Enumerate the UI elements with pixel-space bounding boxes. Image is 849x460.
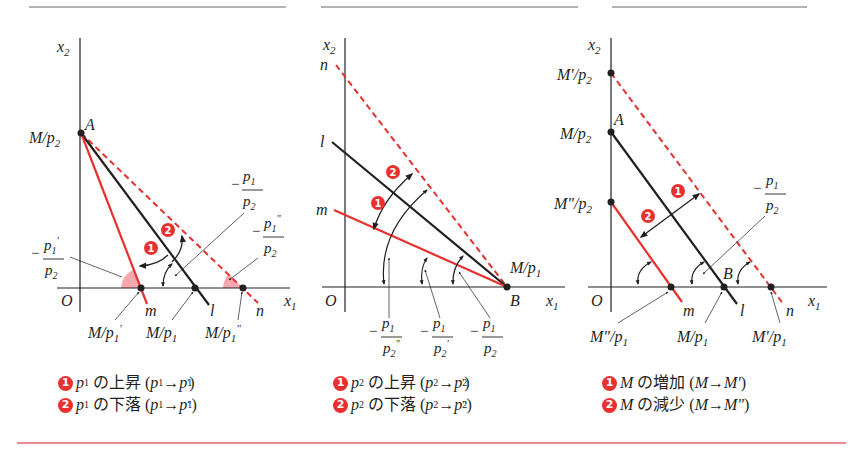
y-axis-label: x2 bbox=[322, 36, 336, 56]
x-intercept-M: M/p1 bbox=[676, 328, 708, 348]
point-A bbox=[608, 129, 615, 136]
line-m-label: m bbox=[683, 302, 695, 319]
panel-p1-change: 1 2 x2 x1 O A M/p2 m l n M/p1' M/p1 M/p1… bbox=[28, 38, 297, 344]
svg-text:p1: p1 bbox=[765, 172, 779, 191]
badge-icon: 1 bbox=[602, 376, 617, 391]
leader-x-n bbox=[771, 292, 780, 323]
point-A-label: A bbox=[613, 111, 624, 128]
point-m-intercept bbox=[138, 285, 145, 292]
angle-arc-l bbox=[692, 262, 704, 284]
legend-p1: 1 p1 の上昇 (p1→p1') 2 p1 の下落 (p1→p1") bbox=[58, 372, 197, 416]
rotation-arrow-1 bbox=[140, 255, 168, 266]
angle-arc-l bbox=[422, 258, 427, 284]
y-intercept-M-prime: M'/p2 bbox=[556, 66, 592, 86]
y-intercept-M: M/p2 bbox=[559, 125, 592, 145]
slope-label: − p1 p2 bbox=[752, 172, 786, 216]
leader-l-slope bbox=[175, 213, 244, 276]
badge-icon: 1 bbox=[333, 376, 348, 391]
x-intercept-M-prime: M'/p1 bbox=[751, 328, 787, 348]
slope-label-l: − p1 p2 bbox=[469, 315, 503, 359]
line-m bbox=[81, 133, 147, 304]
line-n-label: n bbox=[256, 302, 264, 319]
panel-p2-change: 1 2 x2 x1 O B M/p1 n l m − p1 p2" − p1 p… bbox=[316, 36, 565, 359]
svg-text:1: 1 bbox=[148, 243, 155, 254]
leader-slope-m bbox=[425, 270, 440, 318]
svg-text:1: 1 bbox=[675, 186, 682, 197]
origin-label: O bbox=[325, 292, 337, 309]
leader-x-l bbox=[705, 292, 722, 323]
y-intercept-label: M/p2 bbox=[28, 129, 61, 149]
leader-x-n bbox=[238, 292, 242, 320]
legend-p2: 1 p2 の上昇 (p2→p2') 2 p2 の下落 (p2→p2") bbox=[333, 372, 472, 416]
svg-text:2: 2 bbox=[645, 211, 652, 222]
badge-2: 2 bbox=[386, 165, 400, 179]
slope-label-n: − p1" p2 bbox=[251, 213, 284, 259]
svg-text:p1: p1 bbox=[482, 315, 496, 334]
y-axis-label: x2 bbox=[587, 36, 601, 56]
angle-arc-m bbox=[638, 262, 651, 284]
line-m-label: m bbox=[316, 201, 328, 218]
svg-text:p2": p2" bbox=[382, 338, 401, 359]
x-axis-label: x1 bbox=[545, 292, 559, 312]
y-axis-label: x2 bbox=[56, 38, 70, 58]
legend-M: 1 M の増加 (M→M') 2 M の減少 (M→M") bbox=[602, 372, 749, 416]
x-intercept-l-label: M/p1 bbox=[145, 324, 177, 344]
x-axis-label: x1 bbox=[283, 292, 297, 312]
svg-text:−: − bbox=[419, 323, 429, 339]
point-M-prime-x bbox=[768, 284, 775, 291]
x-intercept-M-dprime: M"/p1 bbox=[589, 328, 628, 348]
line-l-label: l bbox=[320, 133, 325, 150]
leader-x-m bbox=[115, 292, 139, 320]
badge-icon: 2 bbox=[333, 398, 348, 413]
svg-text:p2: p2 bbox=[483, 340, 497, 359]
svg-text:p2': p2' bbox=[433, 338, 450, 359]
leader-x-l bbox=[172, 292, 193, 320]
point-B-label: B bbox=[510, 292, 520, 309]
badge-1: 1 bbox=[144, 241, 158, 255]
badge-2: 2 bbox=[161, 223, 175, 237]
svg-text:p1: p1 bbox=[242, 168, 256, 187]
slope-label-m: − p1 p2' bbox=[419, 315, 453, 359]
x-axis-label: x1 bbox=[807, 292, 821, 312]
line-n-label: n bbox=[320, 56, 328, 73]
line-l bbox=[332, 142, 507, 287]
point-M-prime-y bbox=[608, 70, 615, 77]
svg-text:p2: p2 bbox=[242, 193, 256, 212]
badge-1: 1 bbox=[671, 184, 685, 198]
badge-1: 1 bbox=[371, 196, 385, 210]
svg-text:p2: p2 bbox=[263, 240, 277, 259]
svg-text:p1: p1 bbox=[432, 315, 446, 334]
svg-text:p2: p2 bbox=[44, 262, 58, 281]
legend-item-2: 2 M の減少 (M→M") bbox=[602, 394, 749, 416]
point-A bbox=[78, 130, 85, 137]
badge-icon: 2 bbox=[58, 398, 73, 413]
origin-label: O bbox=[591, 292, 603, 309]
legend-item-2: 2 p1 の下落 (p1→p1") bbox=[58, 394, 197, 416]
svg-text:−: − bbox=[30, 245, 40, 261]
svg-text:−: − bbox=[251, 223, 261, 239]
angle-arc-m bbox=[453, 256, 463, 284]
slope-label-l: − p1 p2 bbox=[230, 168, 263, 212]
svg-text:p1: p1 bbox=[381, 315, 395, 334]
slope-label-n: − p1 p2" bbox=[368, 315, 402, 359]
point-B-label: B bbox=[723, 265, 733, 282]
svg-text:1: 1 bbox=[375, 198, 382, 209]
svg-text:p1": p1" bbox=[263, 213, 282, 234]
legend-item-1: 1 p1 の上昇 (p1→p1') bbox=[58, 372, 197, 394]
legend-item-2: 2 p2 の下落 (p2→p2") bbox=[333, 394, 472, 416]
line-m-label: m bbox=[145, 302, 157, 319]
x-intercept-n-label: M/p1" bbox=[204, 322, 241, 344]
leader-slope bbox=[703, 216, 765, 274]
point-M-dprime-y bbox=[608, 199, 615, 206]
x-intercept-m-label: M/p1' bbox=[87, 322, 122, 344]
point-B bbox=[721, 284, 728, 291]
line-l-label: l bbox=[740, 302, 745, 319]
svg-text:2: 2 bbox=[165, 225, 172, 236]
badge-icon: 1 bbox=[58, 376, 73, 391]
line-l-label: l bbox=[210, 302, 215, 319]
svg-text:−: − bbox=[230, 176, 240, 192]
angle-arc-n bbox=[738, 262, 750, 284]
line-l bbox=[81, 133, 209, 305]
badge-icon: 2 bbox=[602, 398, 617, 413]
y-intercept-M-dprime: M"/p2 bbox=[553, 195, 593, 215]
